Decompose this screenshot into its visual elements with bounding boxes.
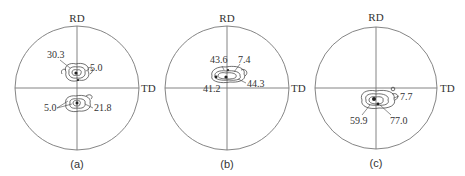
leader-line xyxy=(60,60,70,68)
panel-caption: (b) xyxy=(220,158,233,170)
intensity-label: 30.3 xyxy=(47,49,65,60)
td-label: TD xyxy=(440,82,455,94)
intensity-label: 5.0 xyxy=(44,102,57,113)
pole-figure-b: RD TD 43.6 7.4 44.3 41.2 (b) xyxy=(165,12,306,170)
td-label: TD xyxy=(291,82,306,94)
intensity-label: 5.0 xyxy=(90,62,103,73)
leader-line xyxy=(234,64,240,72)
intensity-label: 41.2 xyxy=(203,83,221,94)
intensity-label: 77.0 xyxy=(390,115,408,126)
rd-label: RD xyxy=(219,12,234,24)
rd-label: RD xyxy=(368,11,383,23)
pole-figure-set: RD TD 30.3 5.0 5.0 21.8 (a) xyxy=(0,0,465,176)
intensity-label: 7.7 xyxy=(400,91,413,102)
leader-line xyxy=(380,105,391,115)
pole-figure-a: RD TD 30.3 5.0 5.0 21.8 (a) xyxy=(15,12,156,170)
leader-line xyxy=(362,105,370,115)
intensity-label: 7.4 xyxy=(238,54,251,65)
intensity-label: 59.9 xyxy=(350,115,368,126)
contour-cluster xyxy=(212,66,247,82)
panel-caption: (a) xyxy=(70,158,83,170)
contour-cluster-lower xyxy=(66,95,92,112)
panel-caption: (c) xyxy=(370,157,383,169)
intensity-label: 43.6 xyxy=(210,54,228,65)
rd-label: RD xyxy=(69,12,84,24)
intensity-label: 44.3 xyxy=(247,78,265,89)
leader-line xyxy=(85,104,93,108)
contour-cluster xyxy=(361,87,397,108)
td-label: TD xyxy=(141,82,156,94)
intensity-label: 21.8 xyxy=(94,102,112,113)
leader-line xyxy=(238,79,246,83)
leader-line xyxy=(57,101,68,108)
leader-line xyxy=(394,96,399,98)
pole-figure-c: RD TD 7.7 59.9 77.0 (c) xyxy=(315,11,455,169)
